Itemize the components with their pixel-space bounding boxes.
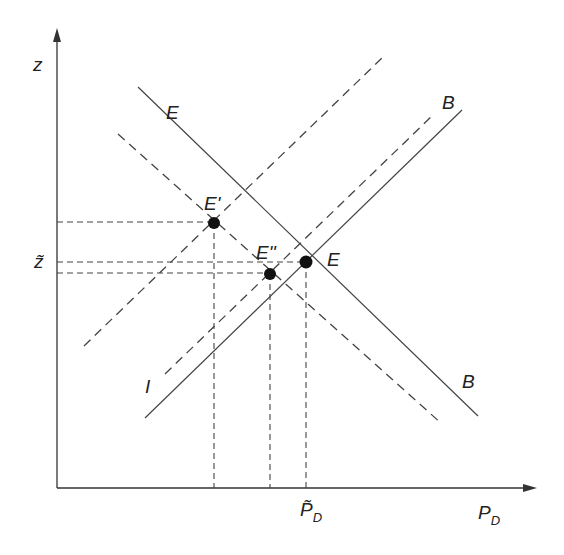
diagram-canvas bbox=[0, 0, 564, 555]
y-tick-label: z̃ bbox=[34, 252, 44, 271]
line-E-label: E bbox=[166, 103, 179, 122]
line-B-label-bottom: B bbox=[462, 372, 475, 391]
line-I-label: I bbox=[145, 377, 150, 396]
x-axis-arrow-icon bbox=[523, 484, 537, 492]
x-tick-label: P̃D bbox=[300, 500, 322, 519]
x-axis-label: PD bbox=[478, 503, 500, 522]
point-E-prime bbox=[208, 217, 220, 229]
line-B-label-top: B bbox=[442, 93, 455, 112]
y-axis-label: z bbox=[33, 55, 43, 74]
point-E-prime-label: E' bbox=[204, 194, 220, 213]
point-E bbox=[300, 256, 313, 269]
x-tick-main: P̃ bbox=[300, 499, 313, 520]
line-upper-dashed bbox=[84, 58, 382, 346]
line-E-solid bbox=[138, 87, 478, 416]
x-axis-sub: D bbox=[491, 513, 500, 528]
point-E-label: E bbox=[327, 250, 340, 269]
point-E-double-prime-label: E'' bbox=[256, 243, 276, 262]
line-I-dashed bbox=[165, 116, 432, 374]
line-E-dashed bbox=[118, 134, 442, 424]
point-E-double-prime bbox=[264, 268, 276, 280]
x-axis-main: P bbox=[478, 502, 491, 523]
y-axis-arrow-icon bbox=[53, 28, 61, 42]
x-tick-sub: D bbox=[313, 510, 322, 525]
